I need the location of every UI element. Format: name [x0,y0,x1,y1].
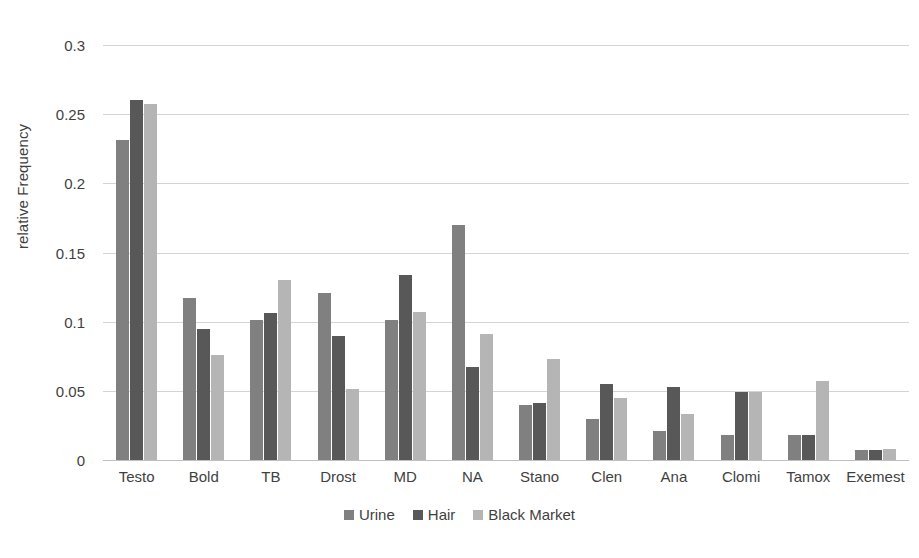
bar[interactable] [183,298,196,460]
x-tick-label: Clomi [722,468,760,485]
bar[interactable] [600,384,613,460]
y-tick-label: 0.15 [56,244,85,261]
bars-layer [103,45,909,460]
bar-group [103,45,170,460]
bar[interactable] [533,403,546,460]
bar[interactable] [144,104,157,460]
bar[interactable] [264,313,277,460]
x-tick-label: Tamox [786,468,830,485]
bar[interactable] [130,100,143,460]
bar[interactable] [802,435,815,460]
y-axis-tick-labels: 00.050.10.150.20.250.3 [0,45,95,460]
y-tick-label: 0.25 [56,106,85,123]
bar-chart: relative Frequency 00.050.10.150.20.250.… [0,0,919,558]
bar[interactable] [855,450,868,460]
bar[interactable] [332,336,345,461]
bar-group [708,45,775,460]
x-tick-label: Stano [520,468,559,485]
bar[interactable] [197,329,210,460]
axis-baseline [103,460,909,461]
bar[interactable] [466,367,479,460]
bar[interactable] [788,435,801,460]
bar-group [506,45,573,460]
x-tick-label: Exemest [846,468,904,485]
bar[interactable] [547,359,560,460]
legend-label: Hair [428,506,456,523]
bar[interactable] [614,398,627,460]
legend-label: Urine [359,506,395,523]
legend-item[interactable]: Urine [344,506,395,523]
bar[interactable] [749,392,762,460]
bar[interactable] [480,334,493,460]
y-tick-label: 0 [77,452,85,469]
bar[interactable] [452,225,465,460]
chart-legend: UrineHairBlack Market [0,506,919,523]
bar[interactable] [318,293,331,460]
x-tick-label: Drost [320,468,356,485]
bar-group [775,45,842,460]
bar[interactable] [413,312,426,460]
bar[interactable] [116,140,129,460]
bar-group [842,45,909,460]
bar[interactable] [211,355,224,460]
bar-group [305,45,372,460]
bar-group [573,45,640,460]
x-tick-label: NA [462,468,483,485]
y-tick-label: 0.3 [64,37,85,54]
bar[interactable] [250,320,263,460]
bar[interactable] [586,419,599,461]
legend-item[interactable]: Hair [413,506,456,523]
bar-group [372,45,439,460]
bar[interactable] [519,405,532,460]
x-tick-label: MD [394,468,417,485]
plot-area [103,45,909,460]
bar-group [237,45,304,460]
legend-label: Black Market [488,506,575,523]
bar[interactable] [278,280,291,460]
bar[interactable] [667,387,680,460]
bar[interactable] [346,389,359,460]
bar-group [170,45,237,460]
legend-swatch-icon [413,510,423,520]
x-tick-label: Bold [189,468,219,485]
bar-group [439,45,506,460]
bar[interactable] [721,435,734,460]
legend-swatch-icon [473,510,483,520]
x-tick-label: Clen [591,468,622,485]
x-axis-tick-labels: TestoBoldTBDrostMDNAStanoClenAnaClomiTam… [103,468,909,492]
x-tick-label: TB [261,468,280,485]
bar[interactable] [869,450,882,460]
y-tick-label: 0.2 [64,175,85,192]
bar[interactable] [681,414,694,460]
bar[interactable] [399,275,412,460]
bar[interactable] [653,431,666,460]
y-tick-label: 0.1 [64,313,85,330]
legend-swatch-icon [344,510,354,520]
legend-item[interactable]: Black Market [473,506,575,523]
bar[interactable] [735,392,748,460]
bar[interactable] [385,320,398,460]
bar[interactable] [816,381,829,460]
y-tick-label: 0.05 [56,382,85,399]
x-tick-label: Testo [119,468,155,485]
bar-group [640,45,707,460]
bar[interactable] [883,449,896,460]
x-tick-label: Ana [661,468,688,485]
